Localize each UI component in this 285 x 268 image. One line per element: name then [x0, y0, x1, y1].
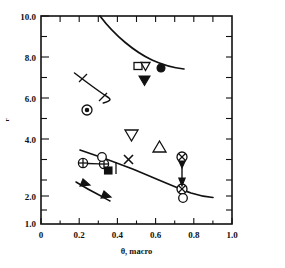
annotation-down-arrow — [179, 161, 185, 186]
marker-crossed-circle-left — [78, 158, 87, 167]
y-tick-label: 10.0 — [20, 12, 36, 22]
x-tick-label: 0.4 — [112, 230, 124, 240]
marker-filled-triangle-left — [80, 179, 90, 186]
marker-x-cross — [124, 155, 133, 164]
x-axis-title: θ, macro — [121, 246, 153, 256]
y-tick-label: 6.0 — [25, 94, 37, 104]
data-curves — [75, 16, 214, 201]
marker-filled-down-triangle — [139, 76, 150, 86]
marker-open-up-triangle — [153, 141, 166, 152]
x-tick-label: 0 — [39, 230, 44, 240]
marker-filled-square — [105, 167, 113, 174]
marker-open-circle-mid — [98, 153, 107, 162]
x-tick-labels: 0 0.2 0.4 0.6 0.8 1.0 — [39, 230, 238, 240]
x-tick-label: 0.2 — [74, 230, 86, 240]
y-axis-title: r — [3, 118, 11, 121]
plot-frame — [41, 16, 232, 224]
x-tick-label: 0.8 — [188, 230, 200, 240]
marker-open-square — [134, 63, 142, 70]
curve-upper — [100, 16, 184, 69]
scatter-plot: 0 0.2 0.4 0.6 0.8 1.0 10.0 8.0 6.0 4.0 2… — [0, 0, 285, 268]
y-tick-label: 4.0 — [25, 135, 37, 145]
chart-figure: 0 0.2 0.4 0.6 0.8 1.0 10.0 8.0 6.0 4.0 2… — [0, 0, 285, 268]
marker-filled-circle — [157, 64, 165, 72]
marker-filled-triangle-right — [101, 191, 111, 198]
axis-ticks — [41, 16, 232, 224]
marker-open-circle-right — [179, 194, 188, 203]
y-tick-label: 8.0 — [25, 53, 37, 63]
x-tick-label: 0.6 — [150, 230, 162, 240]
curve-upper-left-real — [75, 73, 110, 103]
y-tick-label: 1.0 — [25, 219, 37, 229]
y-tick-label: 2.0 — [25, 192, 37, 202]
marker-circled-dot — [82, 105, 92, 115]
marker-open-down-triangle-mid — [125, 130, 138, 141]
y-tick-labels: 10.0 8.0 6.0 4.0 2.0 1.0 — [20, 12, 36, 230]
x-tick-label: 1.0 — [226, 230, 238, 240]
data-markers — [78, 63, 187, 203]
